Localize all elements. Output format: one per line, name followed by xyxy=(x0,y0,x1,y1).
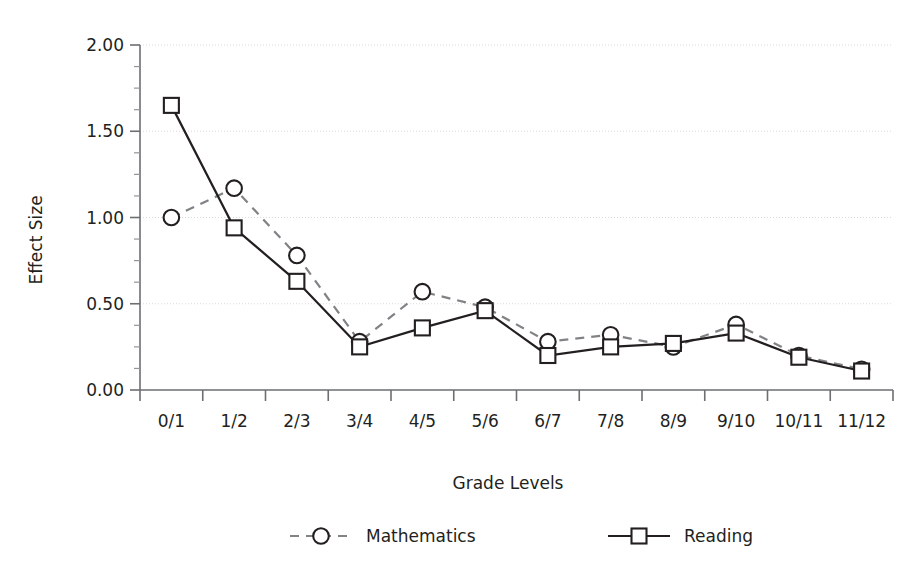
gridlines xyxy=(140,45,893,304)
data-point-reading xyxy=(603,339,618,354)
x-tick-label: 10/11 xyxy=(774,411,823,431)
data-point-reading xyxy=(854,364,869,379)
x-tick-label: 11/12 xyxy=(837,411,886,431)
data-point-reading xyxy=(540,348,555,363)
y-tick-label: 0.50 xyxy=(86,294,124,314)
x-tick-label: 3/4 xyxy=(346,411,373,431)
data-point-mathematics xyxy=(226,180,242,196)
data-point-reading xyxy=(227,220,242,235)
data-point-mathematics xyxy=(289,248,305,264)
y-tick-label: 0.00 xyxy=(86,380,124,400)
data-point-mathematics xyxy=(415,284,431,300)
x-axis-tick-labels: 0/11/22/33/44/55/66/77/88/99/1010/1111/1… xyxy=(158,411,886,431)
x-tick-label: 4/5 xyxy=(409,411,436,431)
data-point-mathematics xyxy=(164,210,180,226)
data-point-reading xyxy=(478,303,493,318)
chart-container: 0.000.501.001.502.00 0/11/22/33/44/55/66… xyxy=(0,0,913,573)
y-axis-title: Effect Size xyxy=(26,195,46,284)
x-axis-title: Grade Levels xyxy=(453,473,564,493)
y-tick-label: 1.00 xyxy=(86,208,124,228)
data-point-reading xyxy=(289,274,304,289)
data-point-reading xyxy=(729,326,744,341)
x-tick-label: 1/2 xyxy=(220,411,247,431)
y-axis xyxy=(130,45,140,390)
y-tick-label: 2.00 xyxy=(86,35,124,55)
x-tick-label: 5/6 xyxy=(471,411,498,431)
x-tick-label: 9/10 xyxy=(717,411,755,431)
y-axis-tick-labels: 0.000.501.001.502.00 xyxy=(86,35,124,400)
data-point-reading xyxy=(791,350,806,365)
legend-label-mathematics: Mathematics xyxy=(366,526,476,546)
x-tick-label: 8/9 xyxy=(660,411,687,431)
legend-marker-reading xyxy=(632,529,647,544)
data-point-reading xyxy=(352,339,367,354)
data-point-reading xyxy=(666,336,681,351)
chart-legend: MathematicsReading xyxy=(290,526,753,546)
x-tick-label: 6/7 xyxy=(534,411,561,431)
legend-label-reading: Reading xyxy=(684,526,753,546)
data-point-reading xyxy=(164,98,179,113)
x-tick-label: 2/3 xyxy=(283,411,310,431)
y-tick-label: 1.50 xyxy=(86,121,124,141)
x-tick-label: 0/1 xyxy=(158,411,185,431)
data-point-reading xyxy=(415,320,430,335)
x-tick-label: 7/8 xyxy=(597,411,624,431)
legend-marker-mathematics xyxy=(313,528,329,544)
data-series xyxy=(164,98,870,379)
series-line-reading xyxy=(171,105,861,371)
x-axis xyxy=(140,390,893,401)
effect-size-line-chart: 0.000.501.001.502.00 0/11/22/33/44/55/66… xyxy=(0,0,913,573)
